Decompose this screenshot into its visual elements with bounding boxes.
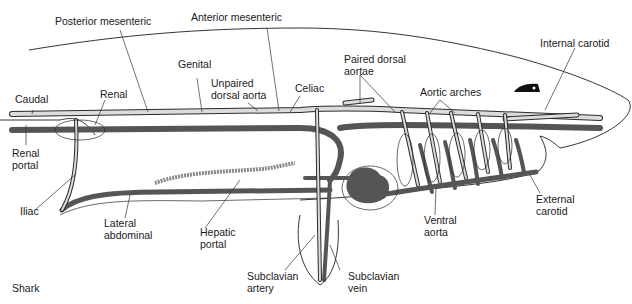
label-caudal: Caudal <box>15 93 48 105</box>
figure-caption: Shark <box>12 282 39 294</box>
label-renal: Renal <box>100 88 127 100</box>
label-internal-carotid: Internal carotid <box>540 37 609 49</box>
label-paired-dorsal-aortae: Paired dorsal aortae <box>344 53 406 77</box>
label-aortic-arches: Aortic arches <box>420 86 481 98</box>
label-genital: Genital <box>178 58 211 70</box>
label-hepatic-portal: Hepatic portal <box>200 226 236 250</box>
label-subclavian-vein: Subclavian vein <box>348 270 399 294</box>
label-subclavian-artery: Subclavian artery <box>247 270 298 294</box>
heart <box>342 166 398 210</box>
label-ventral-aorta: Ventral aorta <box>424 214 457 238</box>
label-celiac: Celiac <box>295 82 324 94</box>
label-lateral-abdominal: Lateral abdominal <box>104 217 152 241</box>
ventral-aorta <box>380 172 536 195</box>
shark-circulation-diagram <box>0 0 632 304</box>
label-posterior-mesenteric: Posterior mesenteric <box>55 15 151 27</box>
label-renal-portal: Renal portal <box>12 147 39 171</box>
label-iliac: Iliac <box>20 205 39 217</box>
eye-icon <box>514 84 540 92</box>
label-external-carotid: External carotid <box>536 193 575 217</box>
lateral-abdominal-vein <box>60 190 330 215</box>
label-anterior-mesenteric: Anterior mesenteric <box>191 11 282 23</box>
dorsal-aorta <box>12 100 600 119</box>
label-unpaired-dorsal-aorta: Unpaired dorsal aorta <box>211 77 266 101</box>
